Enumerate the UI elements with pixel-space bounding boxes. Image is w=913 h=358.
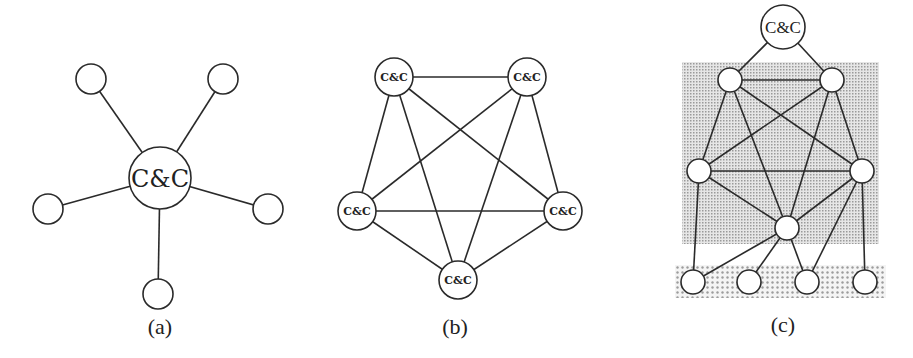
cnc-node-label: C&C xyxy=(343,205,371,218)
edge xyxy=(394,77,458,280)
cnc-node-label: C&C xyxy=(444,274,472,287)
edge xyxy=(394,77,563,211)
bot-node xyxy=(253,194,283,224)
bot-node xyxy=(76,64,106,94)
edge xyxy=(357,77,527,211)
mesh-layer-shading xyxy=(682,62,879,244)
panel-a-star-topology: C&C (a) xyxy=(33,64,283,339)
panel-b-caption: (b) xyxy=(442,314,468,339)
edge xyxy=(357,77,394,211)
bot-node xyxy=(143,279,173,309)
bot-node xyxy=(208,64,238,94)
cnc-root-label: C&C xyxy=(765,18,801,37)
bot-node xyxy=(681,270,705,294)
relay-node xyxy=(775,216,799,240)
cnc-node-label: C&C xyxy=(549,205,577,218)
relay-node xyxy=(687,159,711,183)
relay-node xyxy=(820,68,844,92)
edge xyxy=(458,77,527,280)
network-topology-figure: C&C (a) C&C C&C C&C C&C C&C (b) xyxy=(0,0,913,358)
panel-c-caption: (c) xyxy=(771,312,795,337)
cnc-node-label: C&C xyxy=(513,71,541,84)
cnc-node-label: C&C xyxy=(380,71,408,84)
relay-node xyxy=(850,159,874,183)
edge xyxy=(527,77,563,211)
cnc-hub-label: C&C xyxy=(131,165,189,193)
relay-node xyxy=(718,68,742,92)
bot-node xyxy=(853,270,877,294)
bot-node xyxy=(795,270,819,294)
panel-a-caption: (a) xyxy=(148,314,172,339)
panel-b-mesh-topology: C&C C&C C&C C&C C&C (b) xyxy=(338,58,582,339)
bot-node xyxy=(737,270,761,294)
bot-node xyxy=(33,194,63,224)
panel-c-hierarchical-topology: C&C (c) xyxy=(675,5,886,337)
